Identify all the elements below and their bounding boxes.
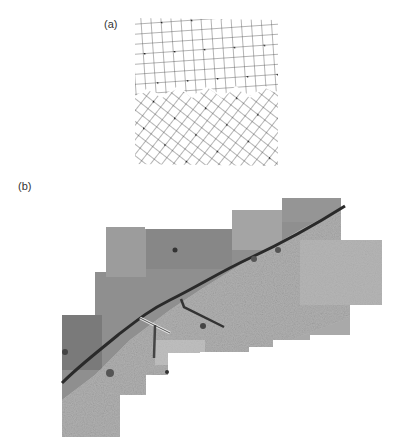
mosaic-tiles — [60, 195, 390, 440]
bicrystal-micrograph-mosaic — [0, 0, 396, 442]
